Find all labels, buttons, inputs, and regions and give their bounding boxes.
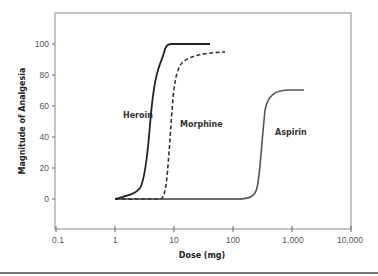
y-tick-40: 40: [40, 132, 50, 142]
x-axis-title: Dose (mg): [179, 251, 225, 260]
x-tick-1: 1: [113, 235, 118, 245]
x-tick-10: 10: [169, 235, 179, 245]
x-tick-100: 100: [226, 235, 240, 245]
morphine-label: Morphine: [180, 120, 223, 129]
y-axis-title: Magnitude of Analgesia: [18, 68, 27, 175]
heroin-label: Heroin: [123, 111, 153, 120]
aspirin-label: Aspirin: [275, 128, 307, 137]
y-tick-80: 80: [40, 70, 50, 80]
y-tick-60: 60: [40, 101, 50, 111]
x-tick-0.1: 0.1: [52, 235, 64, 245]
y-tick-0: 0: [44, 194, 49, 204]
y-tick-100: 100: [35, 39, 49, 49]
x-tick-10000: 10,000: [337, 235, 363, 245]
x-tick-1000: 1,000: [282, 235, 304, 245]
dose-response-chart: 100 80 60 40 20 0 0.1 1 10 100 1,000 10,…: [0, 0, 378, 276]
y-tick-20: 20: [40, 163, 50, 173]
aspirin-curve: [115, 90, 304, 199]
